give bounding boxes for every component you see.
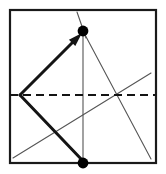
origami-diagram-container: Origami fold diagram: [0, 0, 166, 174]
origami-diagram-svg: Origami fold diagram: [0, 0, 166, 174]
reference-dot-bottom: [78, 158, 89, 169]
reference-dot-top: [78, 26, 89, 37]
